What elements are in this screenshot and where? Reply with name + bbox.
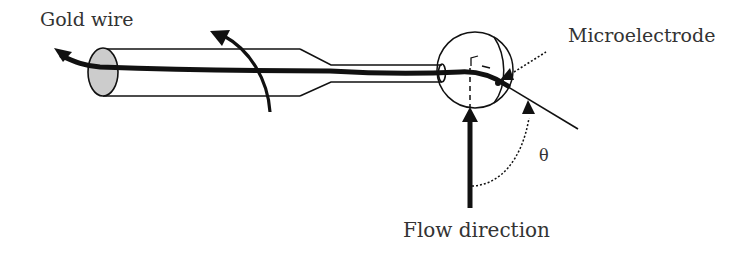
microelectrode-label: Microelectrode xyxy=(568,24,715,46)
rotation-arrow xyxy=(224,36,270,112)
theta-arc xyxy=(472,118,529,186)
microelectrode-arrowhead-icon xyxy=(500,68,514,80)
normal-dotted-line xyxy=(514,52,546,72)
wire-end-cross-section xyxy=(88,48,118,96)
microelectrode-line xyxy=(500,82,578,129)
flow-direction-label: Flow direction xyxy=(403,218,550,242)
electrode-contact-point xyxy=(495,80,501,86)
theta-label: θ xyxy=(539,146,549,165)
flow-arrowhead-icon xyxy=(462,107,478,122)
gold-wire-label: Gold wire xyxy=(40,8,134,30)
microelectrode-sphere xyxy=(437,32,513,108)
